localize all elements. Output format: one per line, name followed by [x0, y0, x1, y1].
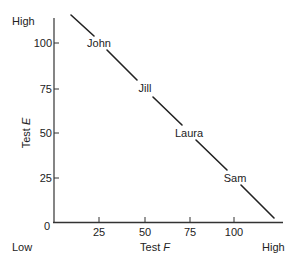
y-axis-title: Test E [20, 117, 32, 148]
y-tick-label: 25 [40, 172, 52, 184]
scatter-chart: 100 75 50 25 0 25 50 75 100 High Low Hig… [0, 0, 300, 266]
y-high-label: High [12, 15, 35, 27]
x-axis-title: Test F [140, 241, 171, 253]
y-tick-label: 75 [40, 83, 52, 95]
y-ticks [54, 43, 59, 178]
x-tick-label: 75 [184, 226, 196, 238]
x-tick-label: 100 [225, 226, 243, 238]
point-label-jill: Jill [139, 82, 152, 94]
x-tick-label: 50 [139, 226, 151, 238]
x-high-label: High [262, 241, 285, 253]
point-label-laura: Laura [175, 127, 204, 139]
y-tick-label: 0 [44, 220, 50, 232]
x-low-label: Low [12, 241, 32, 253]
x-ticks [99, 217, 234, 222]
x-tick-label: 25 [93, 226, 105, 238]
point-label-john: John [87, 37, 111, 49]
y-tick-label: 50 [40, 127, 52, 139]
point-label-sam: Sam [224, 172, 247, 184]
y-tick-label: 100 [34, 37, 52, 49]
x-tick-labels: 25 50 75 100 [93, 226, 243, 238]
y-tick-labels: 100 75 50 25 0 [34, 37, 52, 232]
